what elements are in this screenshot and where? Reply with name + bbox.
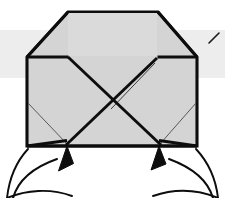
left-outer-guide-curve xyxy=(7,149,28,198)
right-fold-arrow-tail xyxy=(169,159,213,198)
right-fold-arrow-head xyxy=(151,146,166,170)
right-outer-guide-curve xyxy=(196,149,218,198)
guide-curves xyxy=(7,149,218,198)
origami-diagram-svg: Origami folding step diagram xyxy=(0,0,225,198)
origami-figure-container: Origami folding step diagram xyxy=(0,0,225,198)
right-lower-join-curve xyxy=(153,191,218,198)
top-center-panel xyxy=(68,13,157,56)
left-fold-arrow-head xyxy=(59,146,74,171)
left-lower-join-curve xyxy=(7,191,72,198)
